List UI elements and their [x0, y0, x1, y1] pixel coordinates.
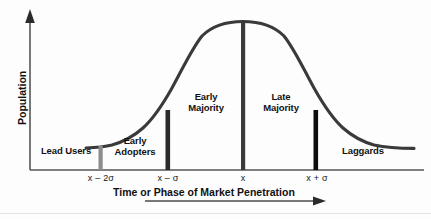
- x-tick-label-3: x: [222, 173, 264, 183]
- segment-label-lead-users: Lead Users: [34, 146, 98, 157]
- segment-label-late-majority-line2: Majority: [252, 103, 310, 114]
- divider-bar-early-adopters: [166, 110, 171, 170]
- divider-bar-late-majority: [314, 110, 319, 170]
- segment-label-early-adopters: Early Adopters: [106, 136, 164, 157]
- y-axis-arrowhead: [25, 9, 35, 23]
- segment-label-early-majority: Early Majority: [177, 92, 235, 113]
- adoption-curve-figure: Population Lead Users Early Adopters Ear…: [0, 0, 431, 219]
- segment-label-early-majority-line2: Majority: [177, 103, 235, 114]
- y-axis-title: Population: [16, 71, 28, 125]
- x-axis-title: Time or Phase of Market Penetration: [113, 186, 295, 198]
- segment-label-late-majority: Late Majority: [252, 92, 310, 113]
- divider-bar-mean: [241, 22, 245, 170]
- segment-label-laggards: Laggards: [330, 146, 396, 157]
- x-tick-label-2: x – σ: [140, 173, 196, 183]
- bottom-divider-rule: [0, 213, 431, 214]
- segment-label-early-adopters-line2: Adopters: [106, 147, 164, 158]
- x-tick-label-4: x + σ: [288, 173, 346, 183]
- divider-bar-lead-users: [99, 146, 103, 170]
- x-tick-label-1: x – 2σ: [72, 173, 130, 183]
- bell-curve-path: [86, 22, 414, 149]
